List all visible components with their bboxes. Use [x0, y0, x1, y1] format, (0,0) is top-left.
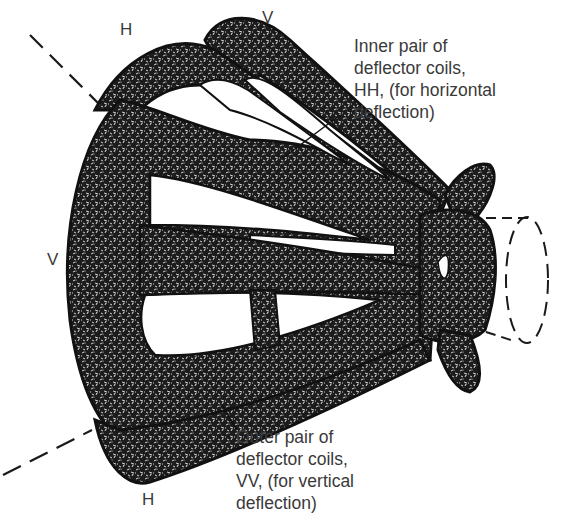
- callout-outer-coils: Outer pair of deflector coils, VV, (for …: [236, 426, 354, 514]
- label-h-bottom: H: [142, 490, 154, 510]
- tube-neck-dashed-ellipse: [506, 217, 548, 343]
- label-h-top: H: [120, 20, 132, 40]
- coil-vertical-strap: [250, 290, 280, 350]
- tube-neck-dashed-bottom: [486, 332, 514, 341]
- axis-dashed-line-bottom: [3, 430, 92, 475]
- neck-hub: [420, 210, 495, 342]
- label-v-top: V: [262, 8, 274, 28]
- neck-flange-bottom: [438, 330, 479, 392]
- label-v-left: V: [47, 250, 59, 270]
- deflector-coils-diagram: H V V H Inner pair of deflector coils, H…: [0, 0, 566, 522]
- axis-dashed-line-top: [30, 35, 100, 105]
- callout-inner-coils: Inner pair of deflector coils, HH, (for …: [354, 35, 496, 123]
